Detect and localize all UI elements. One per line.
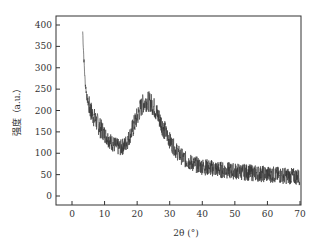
y-tick-label: 300	[35, 63, 52, 73]
y-tick-label: 150	[35, 127, 52, 137]
xrd-chart: 010203040506070 050100150200250300350400…	[0, 0, 316, 248]
y-tick-label: 50	[41, 170, 53, 180]
x-axis: 010203040506070	[69, 201, 306, 219]
xrd-curve	[83, 32, 300, 186]
x-axis-title: 2θ (°)	[173, 228, 199, 238]
x-tick-label: 40	[197, 209, 209, 219]
x-tick-label: 50	[229, 209, 241, 219]
y-axis-title: 强度（a.u.）	[11, 84, 22, 137]
x-tick-label: 20	[131, 209, 143, 219]
y-tick-label: 200	[35, 106, 52, 116]
y-tick-label: 250	[35, 84, 52, 94]
y-tick-label: 400	[35, 20, 52, 30]
x-tick-label: 70	[294, 209, 306, 219]
y-tick-label: 0	[46, 191, 52, 201]
plot-area	[83, 32, 300, 186]
x-tick-label: 0	[69, 209, 75, 219]
x-tick-label: 60	[262, 209, 274, 219]
x-tick-label: 10	[99, 209, 111, 219]
y-tick-label: 350	[35, 41, 52, 51]
y-tick-label: 100	[35, 148, 52, 158]
x-tick-label: 30	[164, 209, 176, 219]
